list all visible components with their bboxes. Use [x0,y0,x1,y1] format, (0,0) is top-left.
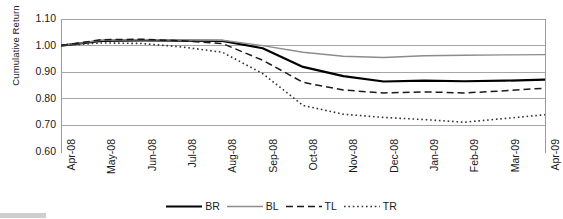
x-tick-label: Mar-09 [509,139,521,199]
legend-item-tl[interactable]: TL [286,201,337,212]
series-line-br [61,40,545,81]
plot-right-axis [545,19,546,153]
series-line-bl [61,40,545,58]
x-tick-label: Jul-08 [186,139,198,199]
plot-area [61,19,545,152]
y-tick-label: 0.90 [36,66,56,76]
legend-item-bl[interactable]: BL [227,201,279,212]
x-tick-label: Apr-09 [549,139,561,199]
x-tick-label: Aug-08 [226,139,238,199]
chart-legend: BRBLTLTR [0,196,563,216]
legend-item-br[interactable]: BR [166,201,220,212]
legend-swatch-tl [286,201,322,212]
x-tick-label: Sep-08 [267,139,279,199]
legend-label-br: BR [205,201,220,212]
x-tick-label: Jan-09 [428,139,440,199]
x-tick-label: Oct-08 [307,139,319,199]
cumulative-return-line-chart: Cumulative Return 1.101.000.900.800.700.… [0,0,563,219]
y-tick-label: 0.70 [36,119,56,129]
footer-rule [0,213,46,218]
y-tick-label: 0.80 [36,93,56,103]
y-tick-label: 1.10 [36,13,56,23]
y-tick-label: 1.00 [36,40,56,50]
legend-label-tl: TL [325,201,337,212]
legend-label-tr: TR [383,201,397,212]
x-tick-label: Feb-09 [468,139,480,199]
x-tick-label: Nov-08 [347,139,359,199]
x-tick-label: Jun-08 [146,139,158,199]
x-tick-label: May-08 [105,139,117,199]
legend-item-tr[interactable]: TR [344,201,397,212]
legend-label-bl: BL [266,201,279,212]
series-lines [61,19,545,152]
x-tick-label: Dec-08 [388,139,400,199]
x-tick-label: Apr-08 [65,139,77,199]
legend-swatch-bl [227,201,263,212]
legend-swatch-br [166,201,202,212]
legend-swatch-tr [344,201,380,212]
